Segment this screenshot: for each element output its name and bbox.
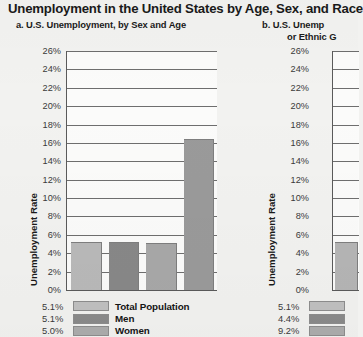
y-tick-mark	[66, 51, 67, 52]
y-tick-mark	[332, 106, 333, 107]
y-tick-label: 20%	[43, 101, 61, 111]
y-tick-label: 8%	[48, 211, 61, 221]
y-tick-label: 16%	[43, 138, 61, 148]
legend-label: Total Population	[115, 301, 189, 312]
y-tick-mark	[66, 88, 67, 89]
y-tick-label: 24%	[43, 64, 61, 74]
legend-item: 5.0%Women	[42, 325, 222, 337]
y-tick-mark	[66, 253, 67, 254]
figure-title: Unemployment in the United States by Age…	[8, 1, 360, 16]
legend-value: 9.2%	[278, 325, 308, 336]
y-tick-label: 6%	[296, 230, 309, 240]
legend-item: 9.2%	[278, 325, 358, 337]
gridline	[67, 51, 217, 52]
y-tick-mark	[332, 216, 333, 217]
y-tick-label: 2%	[48, 267, 61, 277]
y-tick-label: 26%	[291, 46, 309, 56]
chart-b-y-axis-title: Unemployment Rate	[266, 193, 277, 286]
y-tick-mark	[332, 198, 333, 199]
y-tick-label: 2%	[296, 267, 309, 277]
gridline	[333, 106, 359, 107]
y-tick-mark	[332, 180, 333, 181]
y-tick-label: 6%	[48, 230, 61, 240]
bar-0	[71, 242, 102, 290]
gridline	[67, 125, 217, 126]
legend-item: 5.1%Men	[42, 312, 222, 324]
y-tick-mark	[66, 272, 67, 273]
y-tick-label: 12%	[43, 175, 61, 185]
y-tick-label: 4%	[296, 248, 309, 258]
gridline	[333, 51, 359, 52]
legend-label: Men	[115, 313, 134, 324]
y-tick-label: 4%	[48, 248, 61, 258]
chart-b-y-tick-labels: 26%24%22%20%18%16%14%12%10%8%6%4%2%0%	[281, 46, 309, 301]
legend-value: 4.4%	[278, 313, 308, 324]
y-tick-label: 0%	[296, 285, 309, 295]
y-tick-mark	[332, 143, 333, 144]
y-tick-mark	[332, 88, 333, 89]
legend-item: 5.1%	[278, 300, 358, 312]
y-tick-mark	[66, 180, 67, 181]
y-tick-label: 8%	[296, 211, 309, 221]
y-tick-label: 22%	[291, 83, 309, 93]
gridline	[67, 88, 217, 89]
gridline	[67, 69, 217, 70]
gridline	[333, 198, 359, 199]
gridline	[333, 180, 359, 181]
gridline	[67, 106, 217, 107]
y-tick-mark	[66, 161, 67, 162]
y-tick-mark	[66, 69, 67, 70]
y-tick-mark	[332, 253, 333, 254]
y-tick-mark	[66, 198, 67, 199]
y-tick-mark	[66, 143, 67, 144]
gridline	[333, 125, 359, 126]
chart-b: Unemployment Rate 26%24%22%20%18%16%14%1…	[248, 46, 358, 301]
y-tick-mark	[332, 235, 333, 236]
legend-value: 5.1%	[278, 301, 308, 312]
legend-color-swatch	[73, 314, 109, 324]
legend-color-swatch	[309, 314, 345, 324]
gridline	[333, 235, 359, 236]
panel-b-title: b. U.S. Unemp	[262, 19, 324, 30]
y-tick-label: 22%	[43, 83, 61, 93]
panel-b-title-line2: or Ethnic G	[287, 31, 336, 42]
chart-b-legend: 5.1%4.4%9.2%	[278, 300, 358, 337]
bar-2	[146, 243, 177, 290]
y-tick-label: 10%	[43, 193, 61, 203]
y-tick-label: 16%	[291, 138, 309, 148]
gridline	[333, 290, 359, 291]
legend-color-swatch	[309, 301, 345, 311]
y-tick-mark	[332, 51, 333, 52]
y-tick-label: 20%	[291, 101, 309, 111]
legend-value: 5.0%	[42, 325, 72, 336]
y-tick-mark	[66, 125, 67, 126]
gridline	[333, 69, 359, 70]
y-tick-label: 10%	[291, 193, 309, 203]
legend-value: 5.1%	[42, 313, 72, 324]
legend-color-swatch	[73, 326, 109, 336]
y-tick-mark	[332, 69, 333, 70]
y-tick-label: 24%	[291, 64, 309, 74]
panel-a-title: a. U.S. Unemployment, by Sex and Age	[16, 19, 186, 30]
legend-value: 5.1%	[42, 301, 72, 312]
gridline	[333, 161, 359, 162]
legend-item: 5.1%Total Population	[42, 300, 222, 312]
chart-b-plot-area	[332, 51, 359, 291]
chart-a-plot-area	[66, 51, 217, 291]
y-tick-mark	[332, 290, 333, 291]
legend-item: 4.4%	[278, 312, 358, 324]
chart-a: Unemployment Rate 26%24%22%20%18%16%14%1…	[0, 46, 220, 301]
gridline	[333, 143, 359, 144]
y-tick-label: 18%	[43, 120, 61, 130]
y-tick-mark	[332, 161, 333, 162]
y-tick-mark	[66, 216, 67, 217]
bar-1	[109, 242, 140, 290]
y-tick-mark	[332, 272, 333, 273]
y-tick-label: 12%	[291, 175, 309, 185]
y-tick-label: 14%	[43, 156, 61, 166]
y-tick-label: 26%	[43, 46, 61, 56]
legend-color-swatch	[73, 301, 109, 311]
bar-3	[184, 139, 215, 290]
y-tick-mark	[66, 290, 67, 291]
